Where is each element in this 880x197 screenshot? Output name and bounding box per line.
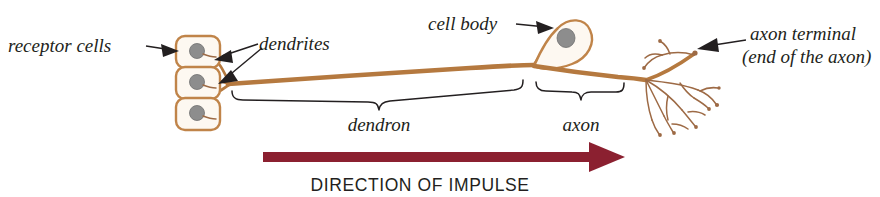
- label-dendron: dendron: [348, 114, 411, 135]
- receptor-cell-3-nucleus: [190, 106, 205, 121]
- receptor-cell-2-nucleus: [190, 75, 205, 90]
- impulse-arrow-head: [589, 142, 625, 172]
- axon-fiber: [534, 66, 646, 80]
- label-axon-terminal-line1: axon terminal: [750, 23, 856, 44]
- neuron-diagram: receptor cells dendrites cell body axon …: [0, 0, 880, 197]
- receptor-cell-1-nucleus: [190, 44, 205, 59]
- receptor-cell-group: [176, 36, 220, 130]
- label-axon-terminal-line2: (end of the axon): [742, 46, 871, 68]
- label-cell-body: cell body: [428, 13, 498, 34]
- measurement-brackets: [232, 80, 624, 110]
- dendron-bracket: [232, 80, 523, 110]
- axon-terminal-arrowhead: [697, 38, 719, 52]
- neuron-anatomy: [176, 20, 721, 137]
- impulse-arrow-shaft: [263, 152, 593, 162]
- impulse-direction-arrow: [263, 142, 625, 172]
- dendron-fiber: [228, 65, 534, 84]
- cell-body-arrowhead: [536, 21, 554, 34]
- cell-body-nucleus: [557, 29, 575, 48]
- label-receptor-cells: receptor cells: [8, 35, 111, 56]
- axon-terminal-tree: [642, 39, 721, 137]
- axon-terminal-leader: [714, 40, 746, 45]
- label-dendrites: dendrites: [259, 33, 330, 54]
- axon-bracket: [536, 82, 624, 100]
- impulse-direction-caption: DIRECTION OF IMPULSE: [310, 175, 529, 195]
- label-axon: axon: [563, 114, 600, 135]
